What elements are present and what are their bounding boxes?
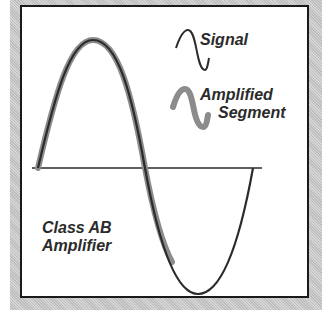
- diagram-title-line2: Amplifier: [42, 237, 111, 254]
- legend-amplified-label-line2: Segment: [218, 104, 286, 121]
- diagram-title-line1: Class AB: [42, 219, 112, 236]
- legend-amplified-label-line1: Amplified: [200, 86, 273, 103]
- signal-sine-curve: [38, 40, 253, 294]
- legend-signal-label: Signal: [200, 31, 248, 48]
- waveform-plot: [0, 0, 324, 319]
